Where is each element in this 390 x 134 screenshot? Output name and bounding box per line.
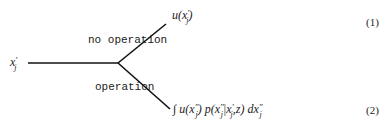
p-func: p( [205,102,215,116]
z-arg: ,z) [233,102,245,116]
branch-label-no-operation: no operation [88,34,167,46]
x-var: x [189,102,194,116]
u-func: u( [179,102,189,116]
close-paren: ) [189,8,193,22]
subscript: j [231,110,233,119]
subscript: j [195,110,197,119]
integral-sign: ∫ [173,102,176,116]
outcome-no-operation: u(x'j) [172,8,193,23]
root-node-label: x'j [10,55,17,70]
equation-number-2: (2) [366,104,379,116]
equation-number-1: (1) [366,16,379,28]
subscript: j [221,110,223,119]
root-subscript: j [14,63,16,72]
close-paren: ) [198,102,202,116]
u-func: u( [172,8,182,22]
outcome-operation: ∫ u(x"j) p(x"j|x'j,z) dx"j [173,102,262,117]
subscript: j [260,110,262,119]
differential: dx [247,102,258,116]
subscript: j [186,16,188,25]
branch-label-operation: operation [95,81,154,93]
